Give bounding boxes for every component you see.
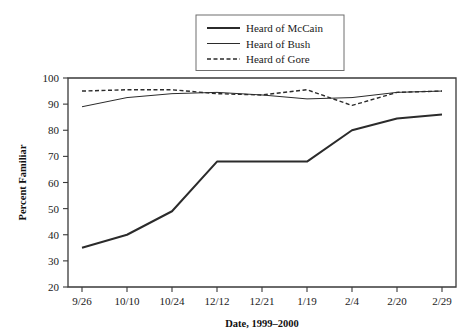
series-line-heard-of-bush <box>82 91 442 107</box>
y-axis-ticks: 2030405060708090100 <box>43 72 69 293</box>
x-tick-label: 2/29 <box>432 295 452 307</box>
legend-label: Heard of McCain <box>246 22 323 34</box>
x-tick-label: 9/26 <box>72 295 92 307</box>
x-tick-label: 12/12 <box>204 295 229 307</box>
legend-label: Heard of Bush <box>246 38 311 50</box>
y-tick-label: 80 <box>48 124 60 136</box>
plot-border <box>68 78 456 287</box>
y-tick-label: 40 <box>48 229 60 241</box>
y-tick-label: 30 <box>48 255 60 267</box>
x-axis-ticks: 9/2610/1010/2412/1212/211/192/42/202/29 <box>72 287 452 307</box>
chart-container: 2030405060708090100 9/2610/1010/2412/121… <box>0 0 476 336</box>
y-tick-label: 70 <box>48 150 60 162</box>
x-tick-label: 10/10 <box>114 295 140 307</box>
legend-label: Heard of Gore <box>246 53 310 65</box>
x-tick-label: 2/20 <box>387 295 407 307</box>
series-line-heard-of-mccain <box>82 115 442 248</box>
y-tick-label: 60 <box>48 177 60 189</box>
y-tick-label: 90 <box>48 98 60 110</box>
chart-legend: Heard of McCainHeard of BushHeard of Gor… <box>196 15 344 71</box>
x-tick-label: 2/4 <box>345 295 360 307</box>
series-line-heard-of-gore <box>82 90 442 106</box>
plot-frame <box>68 78 456 287</box>
x-tick-label: 12/21 <box>249 295 274 307</box>
series-lines <box>82 90 442 248</box>
y-tick-label: 100 <box>43 72 60 84</box>
y-tick-label: 20 <box>48 281 60 293</box>
x-axis-title: Date, 1999–2000 <box>225 318 299 329</box>
x-tick-label: 10/24 <box>159 295 185 307</box>
y-axis-title: Percent Familiar <box>17 144 28 220</box>
y-tick-label: 50 <box>48 203 60 215</box>
x-tick-label: 1/19 <box>297 295 317 307</box>
line-chart: 2030405060708090100 9/2610/1010/2412/121… <box>0 0 476 336</box>
